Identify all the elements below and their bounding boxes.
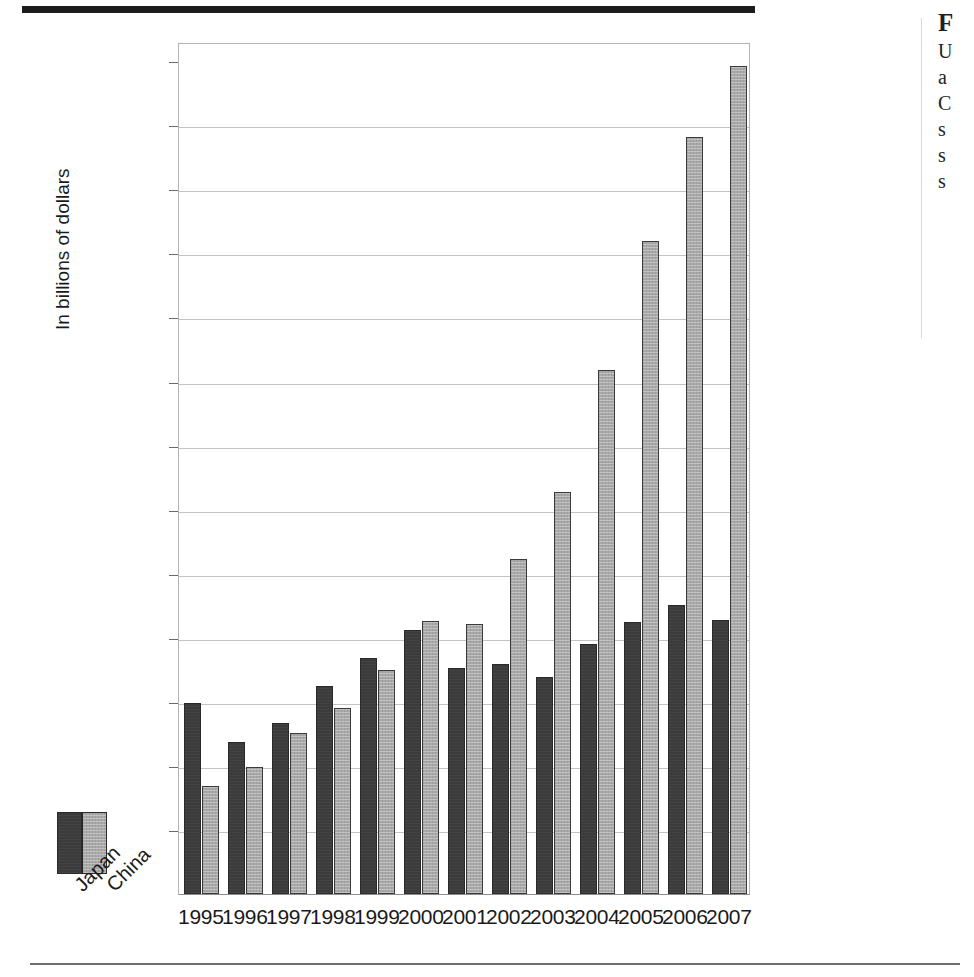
bar-china-1996: [246, 767, 263, 894]
bar-japan-1997: [272, 723, 289, 894]
bar-group: [663, 42, 707, 894]
y-axis-tick-mark: [169, 639, 178, 640]
right-text-column: F UaCsss: [938, 8, 974, 194]
bar-group: [355, 42, 399, 894]
legend-swatch-japan: [57, 812, 82, 874]
bar-group: [487, 42, 531, 894]
right-column-line: s: [938, 116, 974, 142]
bar-china-2007: [730, 66, 747, 894]
y-axis-tick-mark: [169, 190, 178, 191]
bar-group: [619, 42, 663, 894]
x-axis-tick-label: 2001: [442, 906, 486, 928]
right-column-line: C: [938, 90, 974, 116]
y-axis-tick-mark: [169, 767, 178, 768]
x-axis-tick-label: 2003: [530, 906, 574, 928]
right-column-line: a: [938, 64, 974, 90]
bar-japan-1999: [360, 658, 377, 894]
bar-chart-figure: In billions of dollars 20406080100120140…: [0, 0, 760, 977]
legend-label-japan: Japan: [70, 880, 86, 896]
figure-page: In billions of dollars 20406080100120140…: [0, 0, 974, 977]
x-axis-tick-label: 2007: [706, 906, 750, 928]
x-axis-tick-label: 2000: [398, 906, 442, 928]
bar-group: [443, 42, 487, 894]
x-axis-tick-label: 2004: [574, 906, 618, 928]
bar-japan-1996: [228, 742, 245, 894]
bar-china-1997: [290, 733, 307, 894]
x-axis-tick-label: 1997: [266, 906, 310, 928]
y-axis-tick-mark: [169, 575, 178, 576]
bar-china-2000: [422, 621, 439, 894]
plot-area: [178, 43, 750, 895]
bar-japan-2001: [448, 668, 465, 894]
bar-china-2002: [510, 559, 527, 894]
right-column-line: s: [938, 142, 974, 168]
x-axis-tick-label: 1999: [354, 906, 398, 928]
x-axis-tick-label: 2005: [618, 906, 662, 928]
bar-japan-2005: [624, 622, 641, 894]
bar-japan-2004: [580, 644, 597, 894]
bar-japan-2007: [712, 620, 729, 894]
bar-china-2006: [686, 137, 703, 894]
x-axis-tick-label: 2006: [662, 906, 706, 928]
bar-china-2004: [598, 370, 615, 894]
y-axis-tick-mark: [169, 62, 178, 63]
right-column-lines: UaCsss: [938, 38, 974, 194]
right-column-line: s: [938, 168, 974, 194]
bar-china-1998: [334, 708, 351, 894]
bar-group: [399, 42, 443, 894]
y-axis-tick-mark: [169, 703, 178, 704]
y-axis-tick-mark: [169, 126, 178, 127]
y-axis-tick-mark: [169, 254, 178, 255]
bar-group: [267, 42, 311, 894]
y-axis-tick-mark: [169, 447, 178, 448]
y-axis-tick-mark: [169, 383, 178, 384]
bar-china-2003: [554, 492, 571, 894]
bar-japan-2003: [536, 677, 553, 894]
x-axis-tick-label: 1996: [222, 906, 266, 928]
bar-china-1995: [202, 786, 219, 894]
right-column-line: U: [938, 38, 974, 64]
bar-japan-2006: [668, 605, 685, 894]
bar-group: [707, 42, 751, 894]
y-axis-title: In billions of dollars: [52, 10, 74, 330]
y-axis-tick-mark: [169, 511, 178, 512]
bar-china-1999: [378, 670, 395, 894]
right-column-heading: F: [938, 8, 974, 38]
bar-china-2005: [642, 241, 659, 894]
chart-legend: Japan China: [57, 812, 197, 962]
legend-label-china: China: [102, 880, 118, 896]
bar-japan-2000: [404, 630, 421, 894]
bar-group: [179, 42, 223, 894]
bottom-rule: [30, 963, 960, 965]
bar-china-2001: [466, 624, 483, 894]
bar-japan-1998: [316, 686, 333, 894]
column-separator: [921, 18, 922, 338]
x-axis-tick-label: 2002: [486, 906, 530, 928]
bar-group: [531, 42, 575, 894]
bar-group: [223, 42, 267, 894]
y-axis-tick-mark: [169, 318, 178, 319]
bar-japan-2002: [492, 664, 509, 894]
bar-group: [311, 42, 355, 894]
bar-group: [575, 42, 619, 894]
x-axis-tick-label: 1998: [310, 906, 354, 928]
